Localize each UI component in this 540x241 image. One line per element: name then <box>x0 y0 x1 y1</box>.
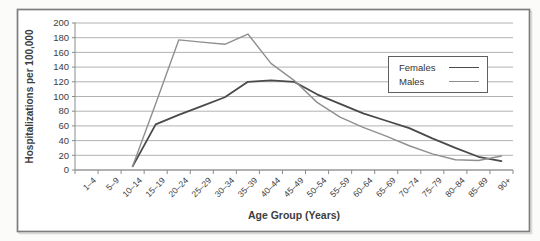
legend-line-sample-females <box>449 67 479 69</box>
legend: Females Males <box>388 56 488 93</box>
y-tick-label-40: 40 <box>58 135 69 146</box>
y-tick-label-60: 60 <box>58 120 69 131</box>
legend-label-males: Males <box>399 76 424 87</box>
y-tick-label-100: 100 <box>53 91 69 102</box>
y-tick-label-80: 80 <box>58 105 69 116</box>
y-tick-label-140: 140 <box>53 61 69 72</box>
y-tick-label-120: 120 <box>53 76 69 87</box>
y-tick-label-180: 180 <box>53 32 69 43</box>
figure: 020406080100120140160180200 1–45–910–141… <box>0 0 540 241</box>
x-axis-title: Age Group (Years) <box>248 209 340 221</box>
y-axis-title: Hospitalizations per 100,000 <box>24 29 35 163</box>
y-tick-label-160: 160 <box>53 47 69 58</box>
figure-border <box>18 10 530 232</box>
y-tick-label-20: 20 <box>58 150 69 161</box>
legend-row-females: Females <box>399 62 479 73</box>
chart: 020406080100120140160180200 1–45–910–141… <box>0 0 540 241</box>
legend-line-sample-males <box>449 81 479 82</box>
y-tick-label-0: 0 <box>64 164 69 175</box>
legend-label-females: Females <box>399 62 435 73</box>
legend-row-males: Males <box>399 76 479 87</box>
y-tick-label-200: 200 <box>53 17 69 28</box>
